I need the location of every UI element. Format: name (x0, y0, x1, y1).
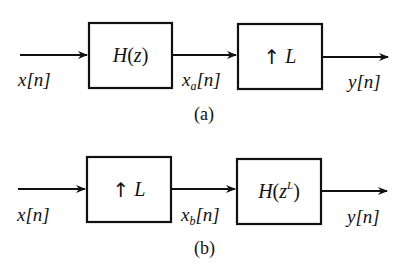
mid-label-a: xa[n] (182, 70, 221, 89)
upsample-factor: L (134, 178, 145, 201)
block-diagrams-canvas (0, 0, 418, 269)
mid-label-b: xb[n] (181, 205, 220, 224)
signal-subscript: b (189, 214, 195, 228)
filter-var: z (134, 44, 142, 67)
input-label-a: x[n] (18, 70, 51, 89)
upsample-factor: L (285, 45, 296, 68)
paren-close: ) (293, 180, 300, 203)
signal-arg: [n] (26, 69, 50, 90)
up-arrow-icon: ↑ (113, 178, 130, 202)
filter-func: H (258, 180, 272, 203)
output-label-a: y[n] (348, 72, 381, 91)
signal-arg: [n] (355, 206, 379, 227)
filter-label-b: H(zL) (237, 159, 321, 224)
signal-arg: [n] (196, 69, 220, 90)
upsampler-label-a: ↑L (238, 24, 322, 89)
paren-open: ( (127, 44, 134, 67)
output-label-b: y[n] (347, 207, 380, 226)
up-arrow-icon: ↑ (264, 45, 281, 69)
filter-exponent: L (287, 179, 293, 191)
signal-subscript: a (190, 79, 196, 93)
caption-a: (a) (194, 104, 214, 125)
input-label-b: x[n] (17, 205, 50, 224)
signal-arg: [n] (25, 204, 49, 225)
filter-var: z (279, 180, 287, 203)
paren-close: ) (142, 44, 149, 67)
upsampler-label-b: ↑L (87, 157, 171, 222)
signal-arg: [n] (195, 204, 219, 225)
signal-arg: [n] (356, 71, 380, 92)
filter-label-a: H(z) (89, 23, 172, 88)
filter-func: H (113, 44, 127, 67)
caption-b: (b) (194, 238, 215, 259)
